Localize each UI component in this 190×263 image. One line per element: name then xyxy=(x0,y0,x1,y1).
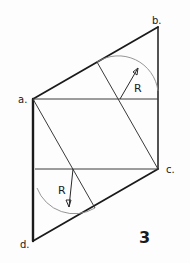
diagram-canvas: R R b. a. c. d. 3 xyxy=(0,0,190,263)
vertex-label-a: a. xyxy=(18,94,27,105)
parallelogram-construction-diagram: R R b. a. c. d. 3 xyxy=(0,0,190,263)
upper-radius-label: R xyxy=(134,82,142,95)
parallelogram-outline xyxy=(33,27,158,241)
radius-arcs xyxy=(37,56,158,214)
vertex-label-c: c. xyxy=(166,164,175,175)
vertex-label-b: b. xyxy=(152,15,162,26)
vertex-label-d: d. xyxy=(20,239,30,250)
figure-number: 3 xyxy=(139,228,150,247)
upper-diagonal-line xyxy=(97,62,158,169)
lower-radius-arrowhead-icon xyxy=(66,200,71,207)
lower-radius-label: R xyxy=(58,184,66,197)
